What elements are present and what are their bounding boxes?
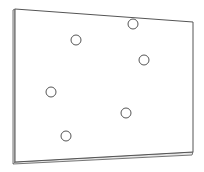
plate-front-face bbox=[15, 9, 193, 162]
hole-2 bbox=[71, 35, 81, 45]
hole-4 bbox=[46, 87, 56, 97]
hole-6 bbox=[61, 131, 71, 141]
plate-drawing bbox=[0, 0, 204, 172]
plate-diagram bbox=[0, 0, 204, 172]
hole-5 bbox=[121, 108, 131, 118]
hole-3 bbox=[139, 55, 149, 65]
hole-1 bbox=[128, 19, 138, 29]
